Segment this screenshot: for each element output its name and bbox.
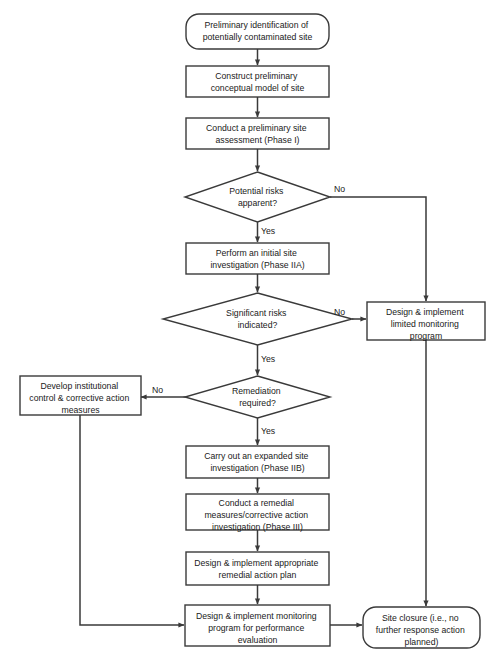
edge-institutional-control-to-performance-monitoring: [80, 415, 184, 625]
node-potential-risks[interactable]: Potential risks apparent?: [185, 172, 330, 222]
node-conceptual-model[interactable]: Construct preliminary conceptual model o…: [186, 66, 329, 97]
node-phase-3[interactable]: Conduct a remedial measures/corrective a…: [186, 494, 329, 532]
edge-label-remediation-no: No: [152, 385, 163, 395]
node-performance-monitoring[interactable]: Design & implement monitoring program fo…: [185, 605, 330, 646]
phase-3-label: Conduct a remedial measures/corrective a…: [204, 498, 310, 532]
edge-label-significant-risks-no: No: [334, 307, 345, 317]
node-institutional-control[interactable]: Develop institutional control & correcti…: [20, 376, 141, 415]
flowchart-svg: Preliminary identification of potentiall…: [0, 0, 503, 664]
node-site-closure[interactable]: Site closure (i.e., no further response …: [363, 607, 480, 648]
node-remedial-action-plan[interactable]: Design & implement appropriate remedial …: [186, 552, 329, 585]
edge-potential-risks-no-to-limited-monitoring: [330, 197, 426, 301]
edge-label-potential-risks-yes: Yes: [261, 226, 276, 236]
node-phase-2b[interactable]: Carry out an expanded site investigation…: [186, 446, 329, 478]
node-phase-2a[interactable]: Perform an initial site investigation (P…: [186, 243, 329, 274]
node-remediation-required[interactable]: Remediation required?: [185, 376, 330, 418]
edge-label-remediation-yes: Yes: [261, 426, 276, 436]
node-phase-1[interactable]: Conduct a preliminary site assessment (P…: [186, 118, 329, 149]
node-start[interactable]: Preliminary identification of potentiall…: [186, 14, 329, 49]
node-limited-monitoring[interactable]: Design & implement limited monitoring pr…: [367, 302, 485, 341]
edge-label-potential-risks-no: No: [334, 184, 345, 194]
node-significant-risks[interactable]: Significant risks indicated?: [163, 293, 352, 345]
edge-label-significant-risks-yes: Yes: [261, 354, 276, 364]
flowchart-canvas: Preliminary identification of potentiall…: [0, 0, 503, 664]
